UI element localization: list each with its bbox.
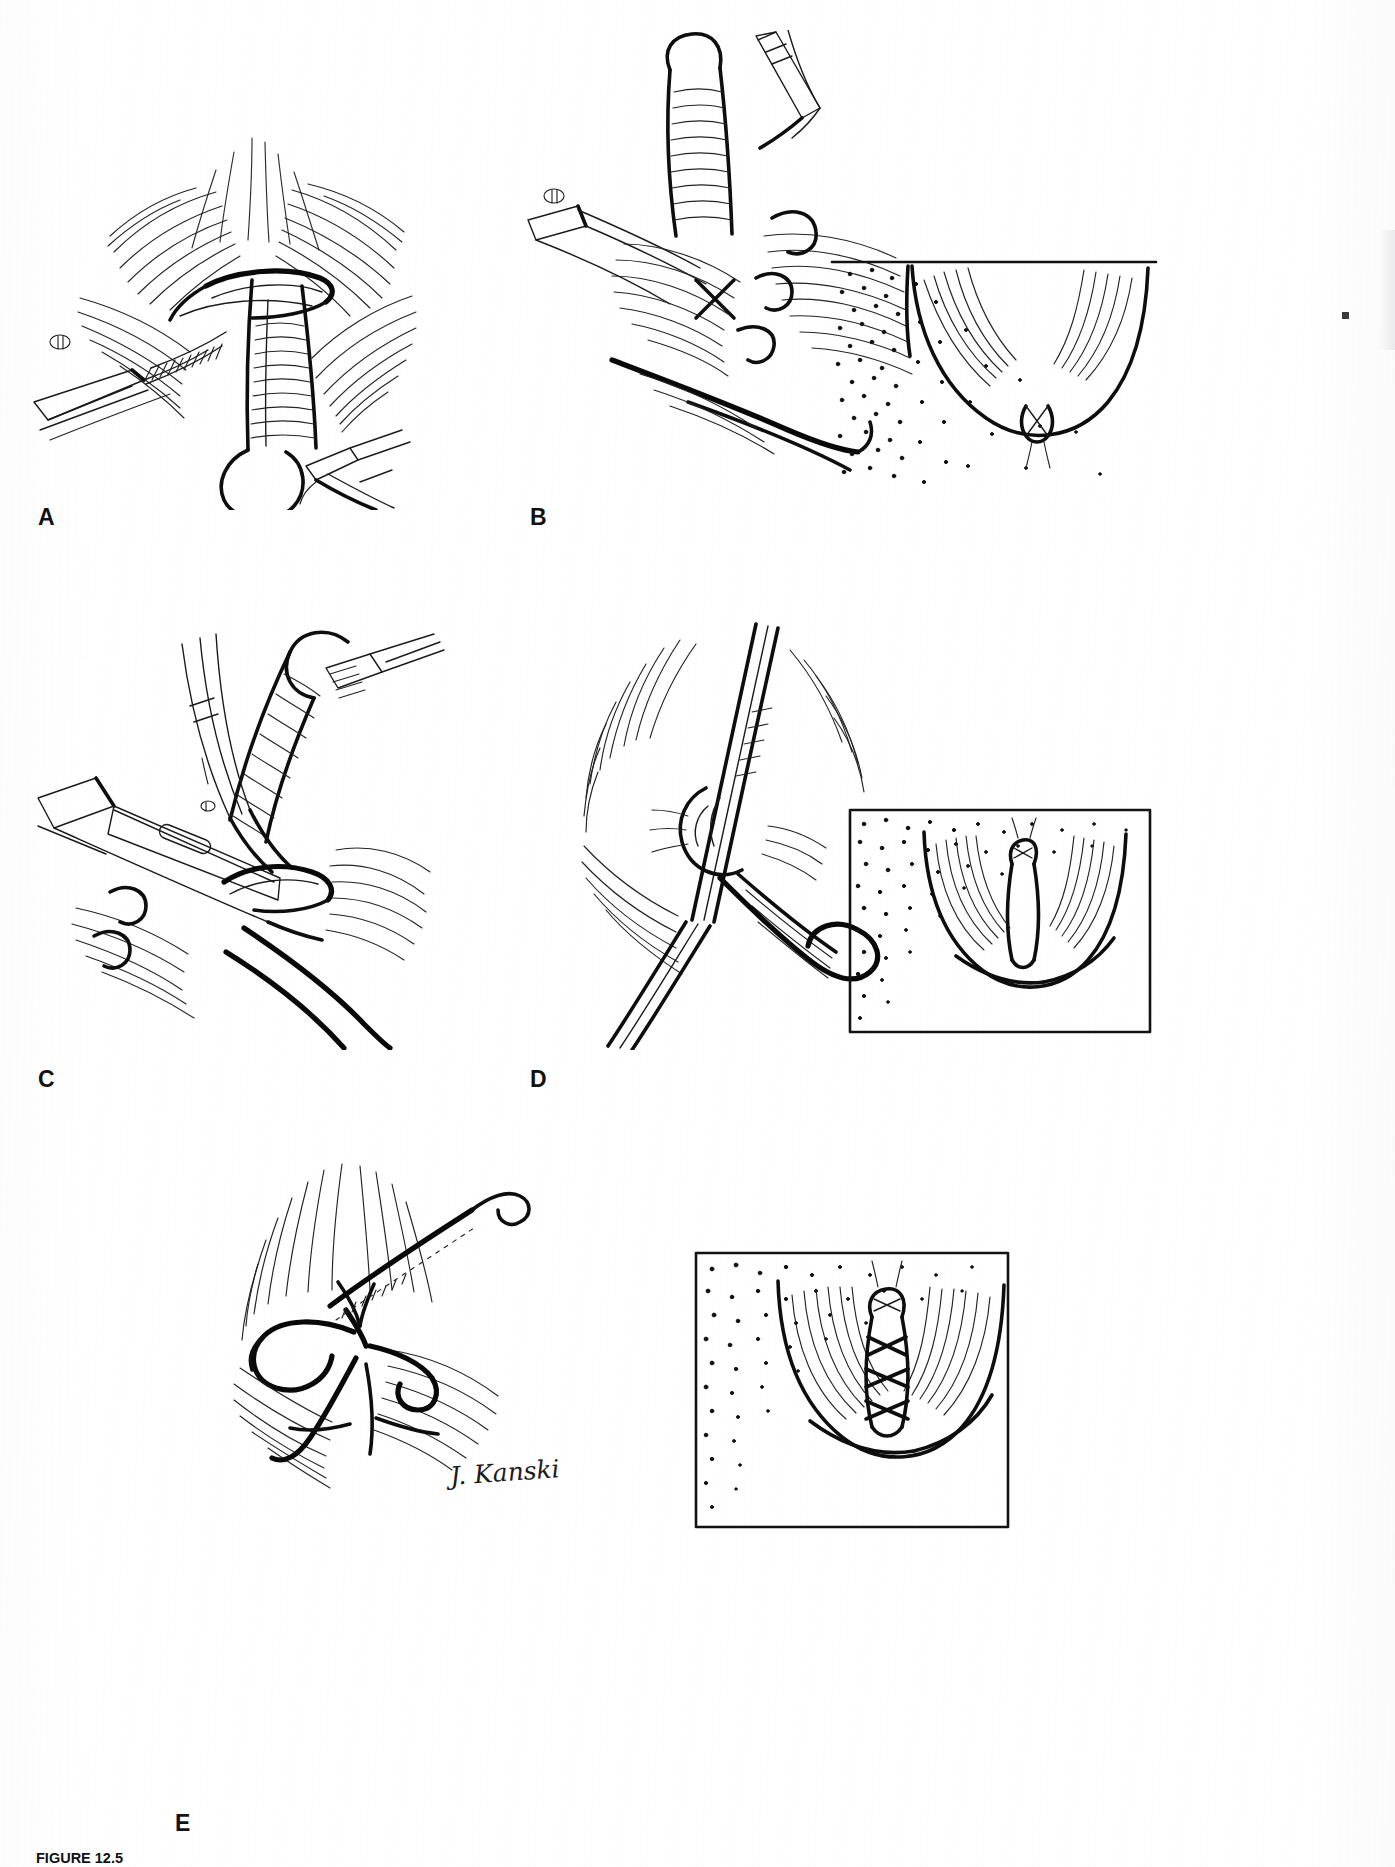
figure-panel-e	[160, 1150, 580, 1510]
panel-d-illustration	[520, 620, 1160, 1050]
figure-panel-a	[20, 130, 450, 510]
panel-letter-a: A	[38, 506, 55, 529]
panel-a-illustration	[20, 130, 450, 510]
panel-e-inset-wrap	[690, 1245, 1020, 1535]
panel-d-inset	[850, 810, 1150, 1032]
panel-e-illustration	[160, 1150, 580, 1510]
figure-caption: FIGURE 12.5	[36, 1849, 1366, 1867]
suture-knot	[868, 1337, 906, 1355]
panel-c-illustration	[30, 610, 460, 1050]
panel-letter-e: E	[175, 1812, 191, 1835]
artist-stamp-icon-b	[544, 189, 564, 203]
artist-stamp-icon-c	[201, 801, 215, 811]
panel-letter-c: C	[38, 1068, 55, 1091]
figure-number: FIGURE 12.5	[36, 1850, 123, 1866]
panel-e-inset	[690, 1245, 1020, 1535]
panel-letter-b: B	[530, 506, 547, 529]
figure-panel-d	[520, 620, 1160, 1050]
panel-b-inset	[832, 262, 1156, 484]
suture-knot	[866, 1369, 908, 1387]
artist-stamp-icon	[50, 335, 70, 349]
figure-panel-b	[520, 30, 1160, 500]
page-edge-tab	[1379, 230, 1395, 350]
figure-panel-c	[30, 610, 460, 1050]
panel-b-illustration	[520, 30, 1160, 500]
suture-knot	[866, 1401, 908, 1419]
panel-letter-d: D	[530, 1068, 547, 1091]
page-edge-mark	[1342, 312, 1349, 319]
page-canvas: A	[0, 0, 1395, 1867]
